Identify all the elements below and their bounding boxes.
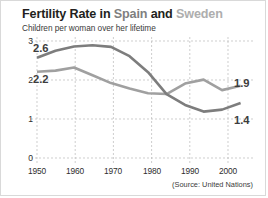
source-note: (Source: United Nations)	[172, 180, 253, 189]
callout-sweden-start: 2.2	[33, 73, 49, 85]
x-tick-label-1980: 1980	[135, 166, 169, 176]
callout-sweden-end: 1.9	[234, 77, 250, 89]
vertical-gridlines	[37, 37, 228, 165]
y-tick-label-1: 1	[19, 115, 33, 124]
x-tick-label-1990: 1990	[173, 166, 207, 176]
x-tick-label-1970: 1970	[96, 166, 130, 176]
series-line-spain	[37, 45, 241, 111]
plot-area: 3 2 1 0 1950 1960 1970 1980 1990 2000 2.…	[1, 1, 266, 196]
callout-spain-end: 1.4	[234, 114, 250, 126]
series-line-sweden	[37, 68, 241, 95]
x-tick-label-1960: 1960	[58, 166, 92, 176]
horizontal-gridlines	[31, 41, 254, 158]
callout-spain-start: 2.6	[33, 42, 49, 54]
y-tick-label-0: 0	[19, 154, 33, 163]
y-tick-label-2: 2	[19, 76, 33, 85]
y-tick-label-3: 3	[19, 37, 33, 46]
fertility-rate-chart-card: Fertility Rate in Spain and Sweden Child…	[0, 0, 266, 196]
x-tick-label-2000: 2000	[211, 166, 245, 176]
x-tick-label-1950: 1950	[20, 166, 54, 176]
